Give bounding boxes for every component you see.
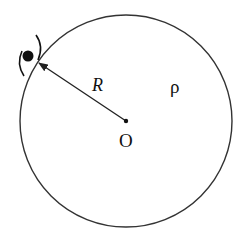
radius-arrow: [39, 63, 126, 121]
center-label: O: [119, 130, 133, 151]
density-label: ρ: [170, 76, 179, 97]
radius-label: R: [91, 75, 103, 95]
center-point: [124, 119, 128, 123]
particle-icon: [19, 35, 40, 76]
sphere-diagram: R ρ O: [0, 0, 242, 235]
